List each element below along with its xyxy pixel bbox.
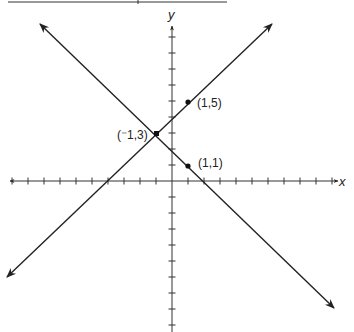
x-axis [10, 178, 338, 185]
coordinate-plane: x y (⁻1,3) (1,5) (1,1) [0, 0, 354, 332]
top-rule [8, 0, 227, 4]
x-axis-label: x [338, 174, 346, 189]
line-y-equals-x-plus-4 [7, 24, 272, 277]
point-label-1-1: (1,1) [198, 156, 223, 170]
y-axis [169, 26, 176, 332]
point-1-1 [185, 163, 190, 168]
y-axis-label: y [167, 7, 176, 22]
point-label-1-5: (1,5) [197, 96, 222, 110]
point-label-neg1-3: (⁻1,3) [117, 128, 148, 142]
point-neg1-3 [154, 131, 159, 136]
point-1-5 [185, 99, 190, 104]
